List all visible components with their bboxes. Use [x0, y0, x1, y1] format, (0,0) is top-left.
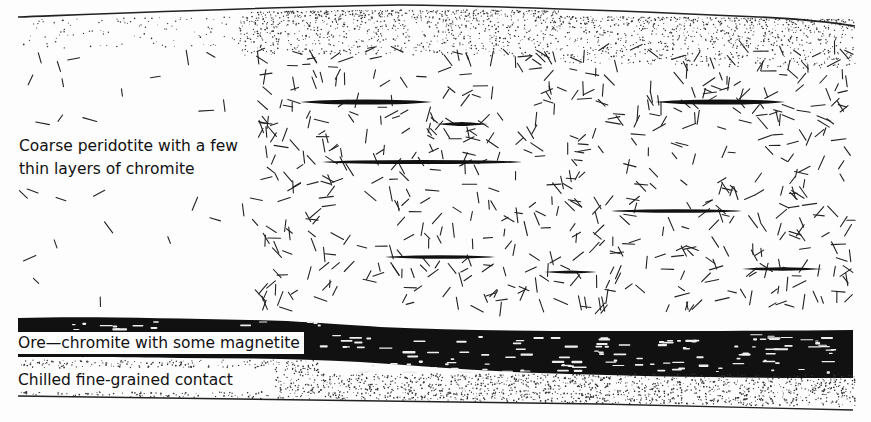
- ore-label: Ore—chromite with some magnetite: [16, 332, 304, 354]
- peridotite-label-line2: thin layers of chromite: [19, 158, 195, 180]
- peridotite-label-line1: Coarse peridotite with a few: [19, 135, 238, 157]
- lower-boundary-line: [18, 396, 853, 410]
- contact-label: Chilled fine-grained contact: [16, 369, 237, 391]
- upper-boundary-line: [18, 5, 855, 26]
- geologic-cross-section: Coarse peridotite with a few thin layers…: [0, 0, 871, 422]
- cross-section-drawing: [0, 0, 871, 422]
- chromite-seams: [300, 100, 823, 274]
